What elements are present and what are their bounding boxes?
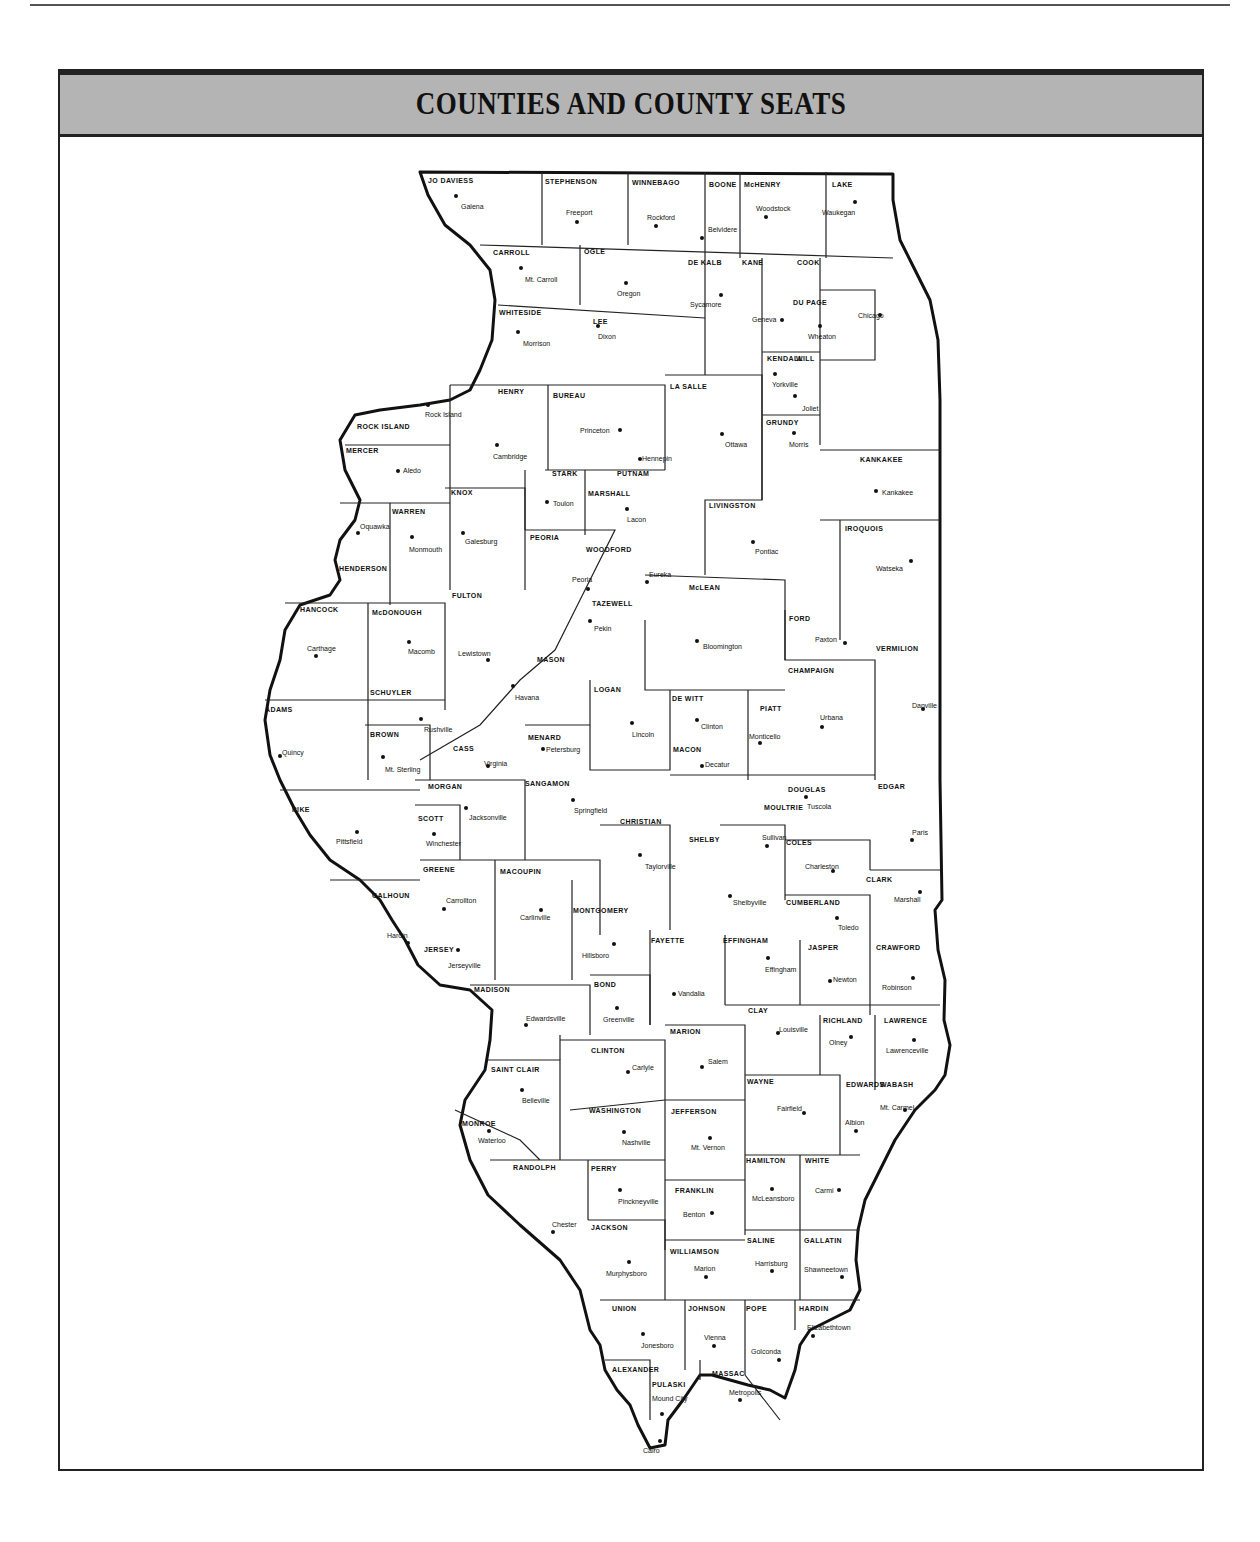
- county-seat-dot-icon: [695, 639, 699, 643]
- state-outline: [265, 172, 950, 1448]
- county-name: BOND: [594, 981, 616, 989]
- county-seat-dot-icon: [426, 403, 430, 407]
- county-seat-label: Bloomington: [703, 643, 742, 651]
- county-seat-dot-icon: [519, 266, 523, 270]
- county-seat-dot-icon: [442, 907, 446, 911]
- county-name: EFFINGHAM: [723, 937, 768, 945]
- county-name: STARK: [552, 470, 578, 478]
- county-seat-dot-icon: [545, 500, 549, 504]
- county-seat-dot-icon: [773, 372, 777, 376]
- county-name: CLARK: [866, 876, 893, 884]
- county-name: DE KALB: [688, 259, 722, 267]
- county-name: SCHUYLER: [370, 689, 412, 697]
- county-seat-dot-icon: [811, 1334, 815, 1338]
- county-seat-dot-icon: [630, 721, 634, 725]
- county-seat-dot-icon: [456, 948, 460, 952]
- county-seat-dot-icon: [710, 1211, 714, 1215]
- county-name: FORD: [789, 615, 810, 623]
- county-seat-dot-icon: [820, 725, 824, 729]
- county-seat-dot-icon: [909, 559, 913, 563]
- county-seat-dot-icon: [712, 1344, 716, 1348]
- county-seat-label: Edwardsville: [526, 1015, 565, 1023]
- county-seat-dot-icon: [645, 580, 649, 584]
- county-seat-label: Salem: [708, 1058, 728, 1066]
- county-seat-dot-icon: [854, 1129, 858, 1133]
- county-seat-dot-icon: [511, 684, 515, 688]
- county-name: RICHLAND: [823, 1017, 863, 1025]
- county-name: JASPER: [808, 944, 838, 952]
- county-seat-label: Peoria: [572, 576, 592, 584]
- county-seat-label: Petersburg: [546, 746, 580, 754]
- county-seat-label: Hardin: [387, 932, 408, 940]
- county-seat-label: Marshall: [894, 896, 920, 904]
- county-name: WINNEBAGO: [632, 179, 680, 187]
- county-seat-label: Chester: [552, 1221, 577, 1229]
- county-seat-dot-icon: [818, 324, 822, 328]
- county-seat-dot-icon: [776, 1031, 780, 1035]
- county-name: CRAWFORD: [876, 944, 920, 952]
- county-name: MORGAN: [428, 783, 462, 791]
- county-seat-dot-icon: [918, 890, 922, 894]
- county-seat-label: Nashville: [622, 1139, 650, 1147]
- county-name: SALINE: [747, 1237, 775, 1245]
- county-seat-label: Oregon: [617, 290, 640, 298]
- county-seat-label: Clinton: [701, 723, 723, 731]
- county-seat-label: Galesburg: [465, 538, 497, 546]
- county-seat-label: Mound City: [652, 1395, 687, 1403]
- county-seat-dot-icon: [495, 443, 499, 447]
- county-seat-label: Morris: [789, 441, 808, 449]
- county-seat-label: Macomb: [408, 648, 435, 656]
- county-seat-dot-icon: [626, 1070, 630, 1074]
- county-seat-label: Hillsboro: [582, 952, 609, 960]
- county-seat-label: Toulon: [553, 500, 574, 508]
- county-seat-dot-icon: [835, 916, 839, 920]
- county-seat-dot-icon: [765, 844, 769, 848]
- county-name: PIKE: [292, 806, 310, 814]
- county-seat-dot-icon: [654, 224, 658, 228]
- county-seat-dot-icon: [641, 1332, 645, 1336]
- county-seat-label: McLeansboro: [752, 1195, 794, 1203]
- county-seat-dot-icon: [658, 1439, 662, 1443]
- county-name: LIVINGSTON: [709, 502, 756, 510]
- county-name: MENARD: [528, 734, 561, 742]
- county-seat-dot-icon: [720, 432, 724, 436]
- county-seat-dot-icon: [770, 1187, 774, 1191]
- county-seat-dot-icon: [728, 894, 732, 898]
- county-seat-label: Lacon: [627, 516, 646, 524]
- county-seat-dot-icon: [396, 469, 400, 473]
- county-name: BUREAU: [553, 392, 585, 400]
- county-name: JEFFERSON: [671, 1108, 717, 1116]
- county-seat-label: Rockford: [647, 214, 675, 222]
- county-seat-label: Shelbyville: [733, 899, 766, 907]
- county-name: WILLIAMSON: [670, 1248, 719, 1256]
- county-seat-label: Waterloo: [478, 1137, 506, 1145]
- county-seat-dot-icon: [454, 194, 458, 198]
- county-seat-dot-icon: [618, 428, 622, 432]
- county-name: CLAY: [748, 1007, 768, 1015]
- county-seat-label: Aledo: [403, 467, 421, 475]
- county-seat-dot-icon: [700, 1065, 704, 1069]
- county-name: CARROLL: [493, 249, 530, 257]
- county-seat-dot-icon: [828, 979, 832, 983]
- county-seat-dot-icon: [837, 1188, 841, 1192]
- county-name: CLINTON: [591, 1047, 625, 1055]
- county-seat-label: Lincoln: [632, 731, 654, 739]
- county-name: MACOUPIN: [500, 868, 541, 876]
- county-seat-dot-icon: [618, 1188, 622, 1192]
- county-seat-label: Decatur: [705, 761, 730, 769]
- county-seat-label: Fairfield: [777, 1105, 802, 1113]
- county-seat-dot-icon: [912, 1038, 916, 1042]
- county-name: MARION: [670, 1028, 701, 1036]
- county-name: KANKAKEE: [860, 456, 903, 464]
- county-seat-dot-icon: [541, 747, 545, 751]
- county-name: LOGAN: [594, 686, 621, 694]
- county-name: CHAMPAIGN: [788, 667, 834, 675]
- county-name: CHRISTIAN: [620, 818, 662, 826]
- county-seat-label: Harrisburg: [755, 1260, 788, 1268]
- county-seat-dot-icon: [524, 1023, 528, 1027]
- county-seat-label: Vandalia: [678, 990, 705, 998]
- county-name: JERSEY: [424, 946, 454, 954]
- county-seat-label: Morrison: [523, 340, 550, 348]
- county-seat-label: Greenville: [603, 1016, 635, 1024]
- county-seat-label: Kankakee: [882, 489, 913, 497]
